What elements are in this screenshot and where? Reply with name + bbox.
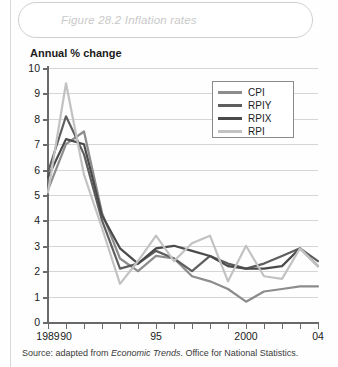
x-axis-tick	[228, 324, 229, 329]
x-axis-tick	[138, 324, 139, 329]
x-axis-tick	[246, 324, 247, 329]
x-axis-tick-label: 1989	[36, 330, 59, 342]
legend-label-rpiy: RPIY	[248, 101, 271, 111]
legend-label-cpi: CPI	[248, 88, 265, 98]
y-axis-tick-label: 2	[18, 265, 40, 277]
y-axis-tick-label: 10	[18, 62, 40, 74]
y-axis-tick-label: 7	[18, 138, 40, 150]
source-note: Source: adapted from Economic Trends. Of…	[22, 348, 298, 358]
y-axis-tick-label: 0	[18, 316, 40, 328]
y-axis-tick-label: 3	[18, 240, 40, 252]
x-axis-tick	[264, 324, 265, 329]
source-suffix: . Office for National Statistics.	[180, 348, 298, 358]
x-axis-tick	[192, 324, 193, 329]
series-line-cpi	[48, 132, 318, 302]
y-axis-tick-label: 5	[18, 189, 40, 201]
x-axis-tick	[210, 324, 211, 329]
y-axis-tick-label: 6	[18, 164, 40, 176]
legend-label-rpi: RPI	[248, 127, 265, 137]
figure-title: Figure 28.2 Inflation rates	[61, 14, 197, 26]
x-axis-tick-label: 90	[60, 330, 72, 342]
x-axis-tick	[318, 324, 319, 329]
y-axis-tick-label: 4	[18, 214, 40, 226]
x-axis-line	[47, 322, 319, 324]
x-axis-tick-label: 04	[312, 330, 324, 342]
legend-swatch-rpix	[218, 117, 242, 120]
legend-item-cpi: CPI	[218, 86, 288, 99]
x-axis-tick	[48, 324, 49, 329]
legend-swatch-rpiy	[218, 104, 242, 107]
x-axis-tick	[84, 324, 85, 329]
figure-page: Figure 28.2 Inflation rates Annual % cha…	[0, 0, 338, 367]
x-axis-tick	[102, 324, 103, 329]
legend-item-rpiy: RPIY	[218, 99, 288, 112]
source-publication: Economic Trends	[111, 348, 180, 358]
x-axis-tick	[300, 324, 301, 329]
legend-swatch-rpi	[218, 130, 242, 133]
legend-item-rpix: RPIX	[218, 112, 288, 125]
legend-item-rpi: RPI	[218, 125, 288, 138]
legend-label-rpix: RPIX	[248, 114, 271, 124]
y-axis-title: Annual % change	[30, 47, 122, 59]
x-axis-tick-label: 2000	[234, 330, 257, 342]
y-axis-tick-label: 1	[18, 291, 40, 303]
x-axis-tick-label: 95	[150, 330, 162, 342]
series-line-rpix	[48, 139, 318, 269]
x-axis-tick	[282, 324, 283, 329]
x-axis-tick	[156, 324, 157, 329]
legend-swatch-cpi	[218, 91, 242, 94]
source-prefix: Source: adapted from	[22, 348, 111, 358]
y-axis-tick-label: 9	[18, 87, 40, 99]
figure-title-box: Figure 28.2 Inflation rates	[18, 2, 313, 38]
x-axis-tick	[66, 324, 67, 329]
y-axis-tick-label: 8	[18, 113, 40, 125]
x-axis-tick	[174, 324, 175, 329]
page-margin-rule	[10, 0, 11, 367]
legend: CPIRPIYRPIXRPI	[212, 81, 294, 138]
x-axis-tick	[120, 324, 121, 329]
